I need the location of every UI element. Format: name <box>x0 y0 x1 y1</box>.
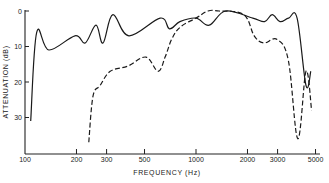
x-tick-label: 3000 <box>270 156 286 163</box>
x-tick-label: 200 <box>71 156 83 163</box>
y-tick-label: 20 <box>14 79 22 86</box>
y-tick-label: 0 <box>18 8 22 15</box>
x-tick-label: 1000 <box>188 156 204 163</box>
x-tick-label: 500 <box>139 156 151 163</box>
x-tick-label: 2000 <box>240 156 256 163</box>
solid-series-line <box>31 11 311 121</box>
x-tick-label: 300 <box>101 156 113 163</box>
y-tick-label: 30 <box>14 114 22 121</box>
attenuation-chart: 01020301002003005001000200030005000 FREQ… <box>0 0 329 183</box>
y-axis-title: ATTENUATION (dB) <box>2 45 10 118</box>
x-axis-title: FREQUENCY (Hz) <box>133 169 200 177</box>
plot-area <box>31 10 312 142</box>
x-tick-label: 5000 <box>308 156 324 163</box>
x-tick-label: 100 <box>19 156 31 163</box>
axes: 01020301002003005001000200030005000 <box>14 8 323 164</box>
y-tick-label: 10 <box>14 43 22 50</box>
